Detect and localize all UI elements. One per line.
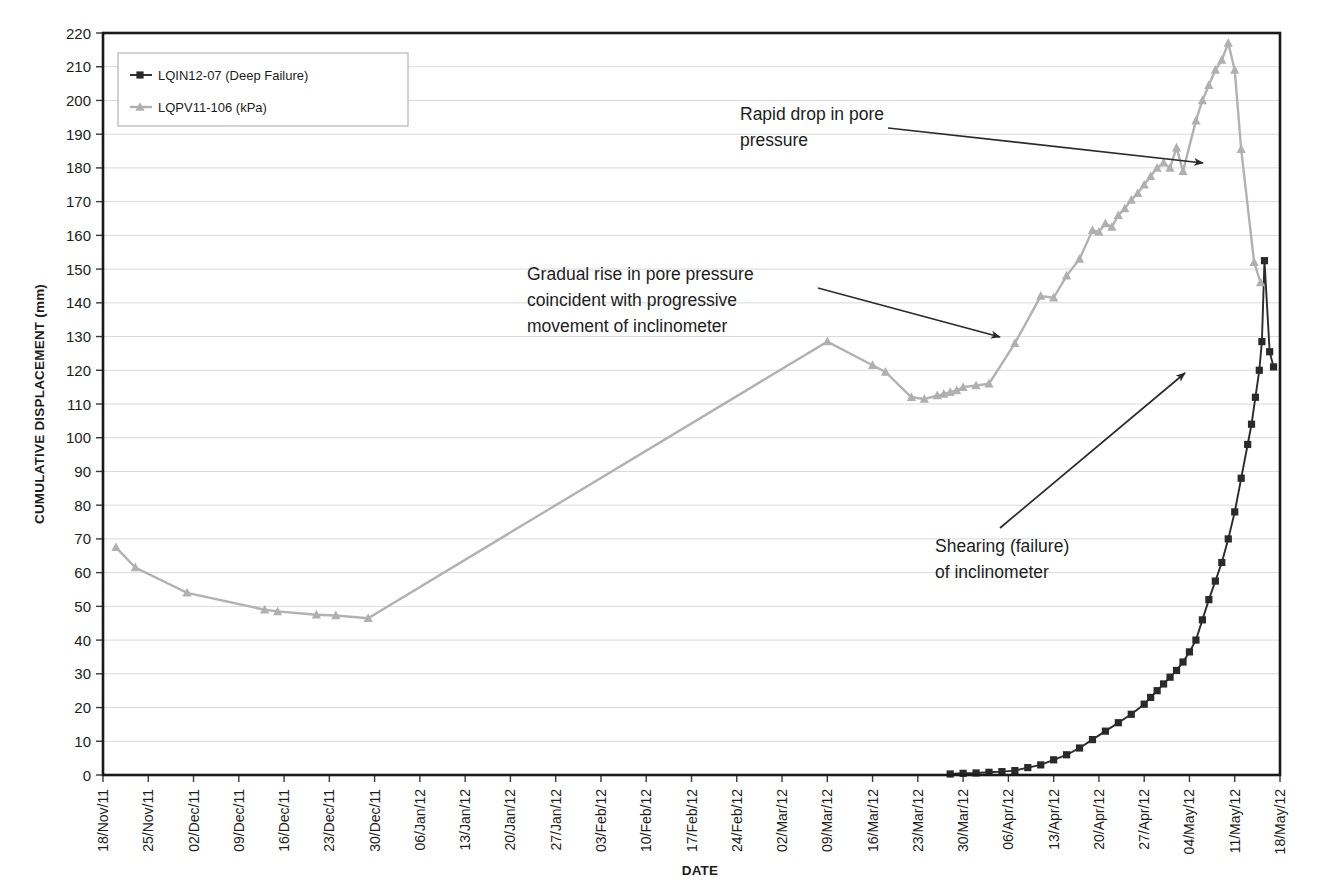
y-tick-label: 80: [74, 497, 91, 514]
x-tick-label: 30/Mar/12: [955, 789, 971, 852]
data-point-marker: [1217, 55, 1226, 64]
data-point-marker: [1128, 711, 1135, 718]
y-tick-label: 20: [74, 699, 91, 716]
legend-marker-square: [136, 71, 143, 78]
y-tick-label: 150: [66, 261, 91, 278]
x-tick-label: 11/May/12: [1227, 789, 1243, 854]
annotation-arrow: [818, 288, 1000, 337]
data-point-marker: [1186, 648, 1193, 655]
data-point-marker: [1147, 694, 1154, 701]
y-tick-label: 170: [66, 193, 91, 210]
data-point-marker: [1252, 394, 1259, 401]
y-tick-label: 60: [74, 564, 91, 581]
x-tick-label: 09/Dec/11: [231, 789, 247, 852]
data-point-marker: [1102, 728, 1109, 735]
x-tick-label: 02/Mar/12: [774, 789, 790, 852]
annotation-text-line: coincident with progressive: [527, 290, 737, 310]
y-tick-label: 110: [67, 396, 91, 413]
y-tick-label: 30: [74, 665, 91, 682]
annotation-rapid-drop: Rapid drop in porepressure: [740, 104, 1203, 163]
series-line: [950, 261, 1273, 774]
annotation-text-line: Shearing (failure): [935, 536, 1069, 556]
data-point-marker: [1075, 254, 1084, 263]
x-tick-label: 06/Jan/12: [412, 789, 428, 851]
y-tick-label: 50: [74, 598, 91, 615]
data-point-marker: [1204, 80, 1213, 89]
x-tick-label: 27/Jan/12: [548, 789, 564, 851]
x-tick-label: 13/Apr/12: [1046, 789, 1062, 850]
gridlines: [103, 67, 1280, 742]
annotation-text-line: Rapid drop in pore: [740, 104, 884, 124]
data-point-marker: [1191, 116, 1200, 125]
x-axis: 18/Nov/1125/Nov/1102/Dec/1109/Dec/1116/D…: [95, 775, 1288, 854]
y-tick-label: 70: [74, 530, 91, 547]
legend: LQIN12-07 (Deep Failure)LQPV11-106 (kPa): [118, 53, 408, 126]
x-tick-label: 04/May/12: [1181, 789, 1197, 855]
annotation-gradual-rise: Gradual rise in pore pressurecoincident …: [527, 264, 1000, 337]
displacement-pore-pressure-chart: 0102030405060708090100110120130140150160…: [0, 0, 1324, 896]
x-tick-label: 24/Feb/12: [729, 789, 745, 852]
data-point-marker: [1266, 348, 1273, 355]
data-point-marker: [1250, 257, 1259, 266]
data-point-marker: [1218, 559, 1225, 566]
x-tick-label: 25/Nov/11: [140, 789, 156, 852]
data-point-marker: [1063, 751, 1070, 758]
y-tick-label: 160: [66, 227, 91, 244]
x-tick-label: 02/Dec/11: [186, 789, 202, 852]
data-point-marker: [1141, 701, 1148, 708]
y-tick-label: 130: [66, 328, 91, 345]
data-point-marker: [1172, 143, 1181, 152]
x-tick-label: 20/Jan/12: [502, 789, 518, 851]
data-point-marker: [1088, 225, 1097, 234]
annotation-text-line: pressure: [740, 130, 808, 150]
x-tick-label: 20/Apr/12: [1091, 789, 1107, 850]
y-tick-label: 40: [74, 632, 91, 649]
data-point-marker: [1261, 257, 1268, 264]
x-tick-label: 16/Mar/12: [865, 789, 881, 852]
data-point-marker: [1166, 674, 1173, 681]
data-point-marker: [1101, 219, 1110, 228]
data-point-marker: [1192, 636, 1199, 643]
y-tick-label: 100: [66, 429, 91, 446]
data-point-marker: [1089, 736, 1096, 743]
y-tick-label: 140: [66, 294, 91, 311]
data-point-marker: [1173, 667, 1180, 674]
y-axis-title: CUMULATIVE DISPLACEMENT (mm): [32, 284, 47, 524]
annotations: Rapid drop in porepressureGradual rise i…: [527, 104, 1203, 582]
y-tick-label: 120: [66, 362, 91, 379]
legend-label: LQPV11-106 (kPa): [158, 100, 267, 115]
y-tick-label: 0: [83, 767, 91, 784]
data-point-marker: [1024, 764, 1031, 771]
y-tick-label: 220: [66, 25, 91, 42]
x-tick-label: 10/Feb/12: [638, 789, 654, 852]
data-point-marker: [1258, 338, 1265, 345]
y-tick-label: 180: [66, 159, 91, 176]
x-tick-label: 18/May/12: [1272, 789, 1288, 855]
y-tick-label: 190: [66, 126, 91, 143]
data-point-marker: [1179, 658, 1186, 665]
data-point-marker: [823, 337, 832, 346]
y-tick-label: 200: [66, 92, 91, 109]
data-point-marker: [1037, 761, 1044, 768]
data-point-marker: [1011, 767, 1018, 774]
x-tick-label: 18/Nov/11: [95, 789, 111, 852]
y-tick-label: 10: [74, 733, 91, 750]
legend-background: [118, 53, 408, 126]
x-tick-label: 03/Feb/12: [593, 789, 609, 852]
data-point-marker: [1256, 367, 1263, 374]
data-point-marker: [1205, 596, 1212, 603]
data-point-marker: [1224, 38, 1233, 47]
annotation-text-line: of inclinometer: [935, 562, 1049, 582]
data-point-marker: [1199, 616, 1206, 623]
annotation-arrow: [888, 128, 1203, 163]
data-point-marker: [1154, 687, 1161, 694]
x-tick-label: 30/Dec/11: [367, 789, 383, 852]
data-point-marker: [1115, 719, 1122, 726]
chart-container: 0102030405060708090100110120130140150160…: [0, 0, 1324, 896]
data-point-marker: [1238, 475, 1245, 482]
x-axis-title: DATE: [682, 863, 719, 878]
x-tick-label: 16/Dec/11: [276, 789, 292, 852]
x-tick-label: 27/Apr/12: [1136, 789, 1152, 850]
y-tick-label: 90: [74, 463, 91, 480]
data-point-marker: [1076, 744, 1083, 751]
